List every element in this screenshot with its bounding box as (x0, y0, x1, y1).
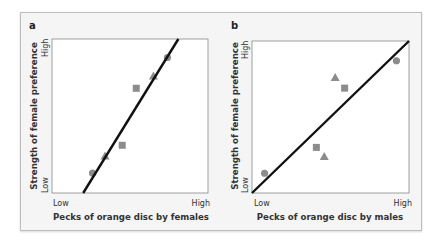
panel-b-point-circle (393, 57, 400, 64)
panel-b-x-tick-high: High (394, 199, 412, 208)
panel-a-x-axis-title: Pecks of orange disc by females (53, 212, 209, 222)
panel-a: a Low High Low High Pecks of orange disc… (29, 20, 210, 222)
panel-b-point-square (313, 144, 320, 151)
panel-a-y-tick-low: Low (41, 177, 50, 193)
panel-b-x-axis-title: Pecks of orange disc by males (257, 212, 403, 222)
panel-b-y-axis-title: Strength of female preference (230, 42, 240, 190)
panel-b-point-circle (261, 170, 268, 177)
panel-a-y-axis-title: Strength of female preference (29, 42, 39, 190)
figure-svg: a Low High Low High Pecks of orange disc… (0, 0, 442, 246)
panel-a-point-square (119, 142, 126, 149)
panel-b-x-tick-low: Low (254, 199, 270, 208)
panel-a-x-tick-low: Low (53, 199, 69, 208)
panel-b-y-tick-low: Low (241, 177, 250, 193)
panel-b-y-tick-high: High (241, 41, 250, 59)
panel-b-point-square (341, 85, 348, 92)
panel-b-label: b (231, 20, 238, 31)
panel-a-y-tick-high: High (41, 39, 50, 57)
panel-a-label: a (29, 20, 36, 31)
panel-a-point-square (133, 85, 140, 92)
panel-b: b Low High Low High Pecks of orange disc… (230, 20, 412, 222)
panel-a-x-tick-high: High (192, 199, 210, 208)
